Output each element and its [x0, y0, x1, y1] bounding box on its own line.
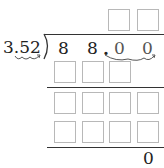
- work-box-row3[interactable]: [109, 121, 131, 143]
- work-box-row3[interactable]: [82, 121, 104, 143]
- dividend-digit: 8: [87, 40, 98, 57]
- subtraction-line: [47, 87, 164, 88]
- dividend-digit: 8: [58, 40, 69, 57]
- work-box-row2[interactable]: [109, 92, 131, 114]
- division-bracket-icon: [42, 33, 54, 63]
- work-box-row1[interactable]: [109, 61, 131, 83]
- work-box-row3[interactable]: [54, 121, 76, 143]
- quotient-box-1[interactable]: [108, 9, 130, 31]
- remainder: 0: [143, 150, 154, 167]
- quotient-box-2[interactable]: [137, 9, 159, 31]
- work-box-row1[interactable]: [54, 61, 76, 83]
- work-box-row1[interactable]: [82, 61, 104, 83]
- work-box-row2[interactable]: [54, 92, 76, 114]
- work-box-row2[interactable]: [137, 92, 159, 114]
- decimal-shift-arrow-icon: [14, 54, 42, 64]
- work-box-row3[interactable]: [137, 121, 159, 143]
- division-top-line: [44, 34, 164, 35]
- work-box-row2[interactable]: [82, 92, 104, 114]
